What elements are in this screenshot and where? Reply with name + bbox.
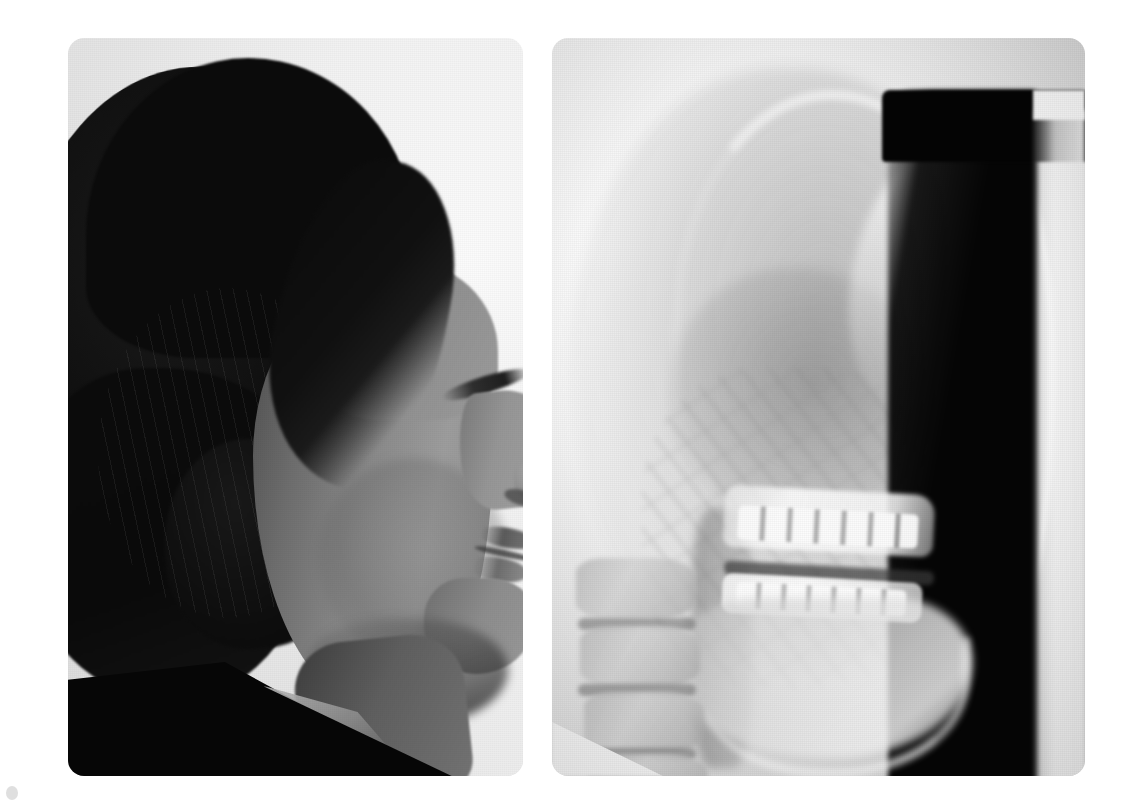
cervical-vertebra bbox=[580, 626, 700, 686]
cervical-vertebra bbox=[576, 558, 696, 618]
profile-photograph-panel[interactable] bbox=[68, 38, 523, 776]
page-artifact-mark bbox=[6, 786, 18, 800]
figure-root bbox=[0, 0, 1138, 806]
film-edge-notch bbox=[1033, 90, 1085, 120]
cephalometric-radiograph-panel[interactable] bbox=[552, 38, 1085, 776]
cervical-vertebra bbox=[584, 692, 704, 752]
film-edge-strip bbox=[1033, 110, 1085, 776]
